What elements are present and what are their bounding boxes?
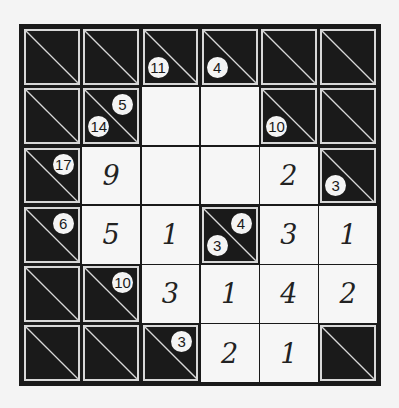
clue-cell-r0c3: 4 [202, 29, 258, 85]
clue-cell-r0c2: 11 [143, 29, 199, 85]
blocked-cell-r0c4 [261, 29, 317, 85]
blocked-cell-r0c1 [83, 29, 139, 85]
across-clue: 6 [53, 213, 74, 234]
diagonal-divider-icon [322, 31, 374, 83]
down-clue: 3 [207, 235, 228, 256]
clue-cell-r3c0: 6 [24, 207, 80, 263]
entry-cell-r5c3[interactable]: 2 [201, 324, 259, 382]
entry-value: 1 [280, 338, 297, 369]
blocked-cell-r5c0 [24, 325, 80, 381]
kakuro-grid: 11451410179236514331103142321 [23, 28, 377, 382]
diagonal-divider-icon [26, 268, 78, 320]
entry-cell-r1c3[interactable] [201, 87, 259, 145]
blocked-cell-r4c0 [24, 266, 80, 322]
entry-cell-r4c5[interactable]: 2 [319, 265, 377, 323]
blocked-cell-r0c5 [320, 29, 376, 85]
down-clue: 14 [88, 116, 109, 137]
entry-cell-r2c1[interactable]: 9 [82, 147, 140, 205]
entry-cell-r2c2[interactable] [142, 147, 200, 205]
diagonal-divider-icon [85, 327, 137, 379]
diagonal-divider-icon [26, 327, 78, 379]
blocked-cell-r5c1 [83, 325, 139, 381]
entry-value: 1 [221, 278, 238, 309]
entry-value: 9 [103, 160, 120, 191]
entry-cell-r1c2[interactable] [142, 87, 200, 145]
blocked-cell-r5c5 [320, 325, 376, 381]
diagonal-divider-icon [85, 31, 137, 83]
across-clue: 4 [231, 213, 252, 234]
entry-cell-r3c2[interactable]: 1 [142, 206, 200, 264]
entry-cell-r4c4[interactable]: 4 [260, 265, 318, 323]
across-clue: 17 [53, 154, 74, 175]
blocked-cell-r0c0 [24, 29, 80, 85]
clue-cell-r1c4: 10 [261, 88, 317, 144]
entry-cell-r4c3[interactable]: 1 [201, 265, 259, 323]
diagonal-divider-icon [322, 90, 374, 142]
blocked-cell-r1c5 [320, 88, 376, 144]
diagonal-divider-icon [26, 31, 78, 83]
clue-cell-r5c2: 3 [143, 325, 199, 381]
diagonal-divider-icon [322, 327, 374, 379]
clue-cell-r4c1: 10 [83, 266, 139, 322]
clue-cell-r3c3: 43 [202, 207, 258, 263]
entry-value: 5 [103, 219, 120, 250]
down-clue: 10 [266, 116, 287, 137]
entry-value: 2 [280, 160, 297, 191]
entry-cell-r4c2[interactable]: 3 [142, 265, 200, 323]
down-clue: 4 [207, 57, 228, 78]
entry-cell-r2c4[interactable]: 2 [260, 147, 318, 205]
entry-cell-r3c5[interactable]: 1 [319, 206, 377, 264]
clue-cell-r2c5: 3 [320, 148, 376, 204]
kakuro-board: 11451410179236514331103142321 [19, 24, 381, 386]
entry-value: 3 [162, 278, 179, 309]
diagonal-divider-icon [263, 31, 315, 83]
across-clue: 10 [112, 272, 133, 293]
blocked-cell-r1c0 [24, 88, 80, 144]
clue-cell-r1c1: 514 [83, 88, 139, 144]
entry-value: 2 [221, 338, 238, 369]
entry-value: 3 [280, 219, 297, 250]
entry-value: 4 [280, 278, 297, 309]
entry-cell-r5c4[interactable]: 1 [260, 324, 318, 382]
entry-cell-r2c3[interactable] [201, 147, 259, 205]
entry-value: 1 [340, 219, 357, 250]
clue-cell-r2c0: 17 [24, 148, 80, 204]
diagonal-divider-icon [26, 90, 78, 142]
entry-value: 1 [162, 219, 179, 250]
entry-cell-r3c1[interactable]: 5 [82, 206, 140, 264]
entry-cell-r3c4[interactable]: 3 [260, 206, 318, 264]
down-clue: 11 [148, 57, 169, 78]
entry-value: 2 [340, 278, 357, 309]
